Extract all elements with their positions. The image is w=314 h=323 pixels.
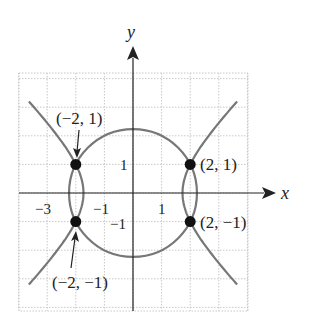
- diagram: x y −3 −1 1 1 −1 (−2, 1) (2, 1) (−2, −1)…: [0, 0, 314, 323]
- x-tick-label: −1: [93, 201, 109, 217]
- tick-labels: −3 −1 1 1 −1: [35, 157, 166, 232]
- intersection-point: [70, 216, 81, 227]
- point-label: (−2, −1): [52, 273, 108, 292]
- intersection-point: [185, 159, 196, 170]
- point-label: (2, 1): [200, 155, 237, 174]
- y-tick-label: −1: [110, 216, 126, 232]
- x-tick-label: 1: [158, 201, 166, 217]
- x-tick-label: −3: [35, 201, 51, 217]
- point-labels: (−2, 1) (2, 1) (−2, −1) (2, −1): [52, 109, 246, 292]
- x-axis-arrow-icon: [262, 187, 276, 199]
- pointer-line: [77, 130, 79, 152]
- x-axis-label: x: [280, 183, 289, 203]
- intersection-point: [70, 159, 81, 170]
- point-label: (2, −1): [200, 213, 246, 232]
- pointer-line: [71, 238, 75, 268]
- y-axis-label: y: [125, 22, 135, 42]
- intersection-point: [185, 216, 196, 227]
- y-axis-arrow-icon: [127, 46, 139, 60]
- y-tick-label: 1: [120, 157, 128, 173]
- point-label: (−2, 1): [56, 109, 102, 128]
